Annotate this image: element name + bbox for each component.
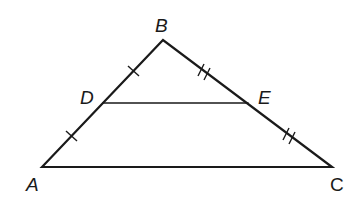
vertex-label-a: A xyxy=(25,174,39,195)
vertex-label-c: C xyxy=(330,174,344,195)
vertex-label-d: D xyxy=(80,87,94,108)
vertex-label-b: B xyxy=(155,15,168,36)
vertex-label-e: E xyxy=(258,87,271,108)
triangle-diagram: B D E A C xyxy=(0,0,361,198)
